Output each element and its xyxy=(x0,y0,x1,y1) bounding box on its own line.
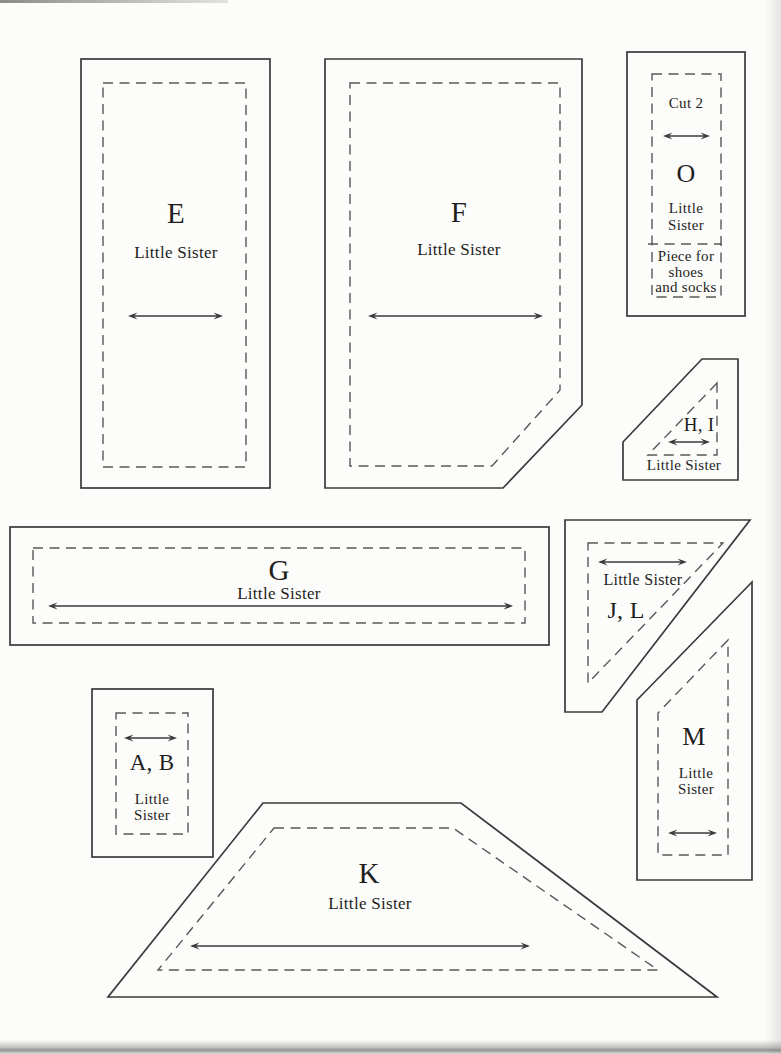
piece-O-grainline-arrow-icon xyxy=(663,132,710,139)
piece-M: M Little Sister xyxy=(637,582,752,880)
page-bottom-edge-shadow xyxy=(0,1040,781,1054)
piece-O-label: O xyxy=(676,159,695,188)
piece-G-name: Little Sister xyxy=(237,584,321,603)
piece-AB: A, B Little Sister xyxy=(92,689,213,857)
piece-F-label: F xyxy=(451,196,467,228)
piece-G: G Little Sister xyxy=(10,527,549,645)
piece-F-seam-line xyxy=(350,83,560,466)
piece-E: E Little Sister xyxy=(81,59,270,488)
piece-HI-label: H, I xyxy=(684,414,715,435)
piece-O-usage-line2: shoes xyxy=(669,264,704,280)
piece-M-name-line1: Little xyxy=(679,765,713,781)
piece-AB-name-line1: Little xyxy=(135,791,169,807)
piece-F-name: Little Sister xyxy=(417,240,501,259)
piece-M-grainline-arrow-icon xyxy=(668,829,717,836)
pattern-pieces-canvas: E Little Sister F Little Sister xyxy=(0,0,781,1054)
piece-O-usage-line3: and socks xyxy=(655,279,716,295)
piece-F: F Little Sister xyxy=(325,59,582,488)
piece-K-label: K xyxy=(358,857,379,889)
piece-AB-name-line2: Sister xyxy=(134,807,170,823)
piece-E-label: E xyxy=(167,197,185,229)
piece-E-cutting-line xyxy=(81,59,270,488)
piece-K-cutting-line xyxy=(108,803,717,997)
piece-JL-grainline-arrow-icon xyxy=(598,558,687,565)
piece-K: K Little Sister xyxy=(108,803,717,997)
piece-F-cutting-line xyxy=(325,59,582,488)
piece-HI: H, I Little Sister xyxy=(623,359,738,480)
piece-K-grainline-arrow-icon xyxy=(190,942,530,949)
piece-AB-grainline-arrow-icon xyxy=(124,734,177,741)
piece-JL-name: Little Sister xyxy=(603,571,682,588)
piece-M-name-line2: Sister xyxy=(678,781,714,797)
piece-E-grainline-arrow-icon xyxy=(128,312,223,319)
piece-O-name-line1: Little xyxy=(669,200,703,216)
piece-M-label: M xyxy=(682,722,705,751)
piece-HI-name: Little Sister xyxy=(647,457,721,473)
piece-G-grainline-arrow-icon xyxy=(48,602,513,609)
piece-AB-label: A, B xyxy=(130,750,175,775)
piece-E-name: Little Sister xyxy=(134,243,218,262)
piece-O-usage-line1: Piece for xyxy=(658,248,714,264)
piece-JL-cutting-line xyxy=(565,520,750,712)
piece-JL: Little Sister J, L xyxy=(565,520,750,712)
scanned-sewing-pattern-page: E Little Sister F Little Sister xyxy=(0,0,781,1054)
page-top-edge-shadow xyxy=(0,0,228,3)
piece-G-label: G xyxy=(268,554,289,586)
piece-O: Cut 2 O Little Sister Piece for shoes an… xyxy=(627,52,745,316)
piece-E-seam-line xyxy=(103,83,246,467)
page-right-edge-shadow xyxy=(765,0,781,1054)
piece-HI-grainline-arrow-icon xyxy=(668,438,710,445)
piece-O-name-line2: Sister xyxy=(668,217,704,233)
piece-K-name: Little Sister xyxy=(328,894,412,913)
piece-O-cut-note: Cut 2 xyxy=(669,95,703,111)
piece-JL-label: J, L xyxy=(607,597,644,623)
piece-F-grainline-arrow-icon xyxy=(368,312,543,319)
